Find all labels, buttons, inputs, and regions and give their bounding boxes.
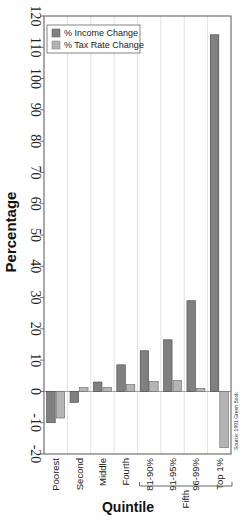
x-category-label: Middle (97, 458, 108, 486)
tax-rate-change-bar (196, 388, 205, 391)
y-tick-label: -10 (28, 413, 43, 432)
y-tick-label: 70 (28, 165, 43, 179)
y-tick-label: 0 (28, 388, 43, 395)
y-tick-label: 80 (28, 134, 43, 148)
y-tick-label: 90 (28, 103, 43, 117)
tax-rate-change-bar (220, 391, 229, 447)
tax-rate-change-bar (56, 391, 65, 418)
tax-rate-change-bar (150, 381, 159, 391)
x-axis-title: Quintile (102, 499, 154, 515)
income-change-bar (117, 365, 126, 392)
y-tick-label: 60 (28, 197, 43, 211)
income-change-bar (140, 351, 149, 392)
y-tick-label: 120 (28, 6, 43, 27)
y-tick-label: 30 (28, 291, 43, 305)
income-change-bar (210, 35, 219, 392)
legend-swatch-tax-rate (52, 41, 60, 49)
income-change-bar (93, 382, 102, 391)
y-tick-label: 10 (28, 353, 43, 367)
income-change-bar (187, 301, 196, 392)
income-change-bar (70, 391, 79, 402)
x-category-label: Second (74, 458, 85, 490)
legend-swatch-income (52, 29, 60, 37)
y-tick-label: 110 (28, 37, 43, 57)
y-tick-label: 100 (28, 68, 43, 89)
y-axis-ticks: -20-100102030405060708090100110120 (28, 6, 45, 464)
source-annotation: Source: 1991 Green Book (233, 392, 239, 450)
y-tick-label: -20 (28, 445, 43, 464)
x-category-label: Poorest (50, 458, 61, 491)
tax-rate-change-bar (80, 388, 89, 392)
income-change-bar (164, 340, 173, 392)
y-tick-label: 50 (28, 228, 43, 242)
x-category-label: Top 1% (214, 457, 225, 489)
legend: % Income Change % Tax Rate Change (47, 25, 144, 53)
tax-rate-change-bar (103, 387, 112, 391)
y-axis-title: Percentage (2, 192, 19, 273)
tax-rate-change-bar (173, 380, 182, 391)
legend-label-tax-rate: % Tax Rate Change (64, 40, 144, 50)
legend-label-income: % Income Change (64, 28, 138, 38)
y-tick-label: 20 (28, 322, 43, 336)
income-change-bar (47, 391, 56, 422)
y-tick-label: 40 (28, 259, 43, 273)
x-category-label: Fourth (120, 458, 131, 485)
tax-rate-change-bar (126, 385, 135, 392)
group-label-fifth: Fifth (180, 490, 191, 508)
bar-chart: -20-100102030405060708090100110120 Poore… (0, 0, 250, 527)
